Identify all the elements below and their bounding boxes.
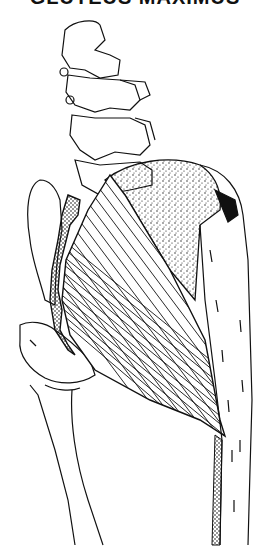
femur bbox=[30, 385, 103, 545]
vastus-lateralis-edge bbox=[212, 435, 222, 545]
gluteus-maximus-illustration bbox=[0, 0, 270, 560]
